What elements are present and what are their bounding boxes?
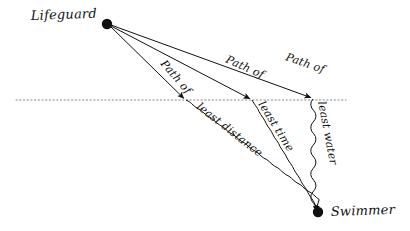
path-least-distance-label-bottom: least distance <box>194 100 265 160</box>
lifeguard-dot <box>102 19 112 29</box>
lifeguard-swimmer-diagram: Lifeguard Swimmer Path of least distance… <box>0 0 410 231</box>
land-segments-group <box>110 25 311 99</box>
land-segment-least-water <box>111 25 311 98</box>
swimmer-dot <box>313 207 323 217</box>
water-segment-least-time <box>252 100 317 210</box>
path-least-water-label-top: Path of <box>283 50 328 76</box>
swimmer-label: Swimmer <box>331 202 396 219</box>
lifeguard-label: Lifeguard <box>30 6 98 23</box>
diagram-canvas: Lifeguard Swimmer Path of least distance… <box>0 0 410 231</box>
path-least-water-label-bottom: least water <box>315 100 340 166</box>
water-segment-least-water <box>311 99 318 210</box>
path-least-time-label-top: Path of <box>223 52 268 81</box>
